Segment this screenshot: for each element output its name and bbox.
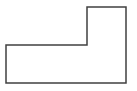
diagram-canvas <box>0 0 137 91</box>
l-shape-outline <box>6 7 126 83</box>
